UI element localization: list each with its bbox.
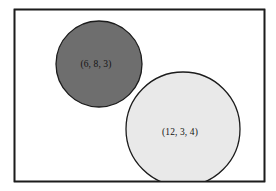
diagram-canvas: (6, 8, 3) (12, 3, 4) [0,0,276,191]
circle-dark-label: (6, 8, 3) [81,59,112,70]
circle-diagram-figure: (6, 8, 3) (12, 3, 4) [0,0,276,191]
circle-light-label: (12, 3, 4) [162,127,198,138]
